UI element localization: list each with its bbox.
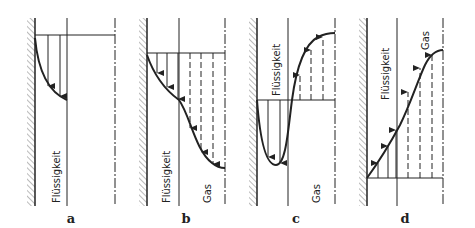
liquid-label: Flüssigkeit xyxy=(270,44,283,96)
wall-hatch xyxy=(359,18,367,206)
panel-b: Flüssigkeit Gas b xyxy=(139,18,225,226)
velocity-profile-curve xyxy=(35,38,67,100)
gas-label: Gas xyxy=(310,184,323,203)
gas-label: Gas xyxy=(201,184,214,203)
panel-a: Flüssigkeit a xyxy=(27,18,115,226)
panel-letter: c xyxy=(292,211,300,226)
panel-letter: d xyxy=(400,211,409,226)
panel-c: Flüssigkeit Gas c xyxy=(249,18,335,226)
panel-letter: b xyxy=(181,211,190,226)
liquid-label: Flüssigkeit xyxy=(50,151,63,203)
panel-d: Flüssigkeit Gas d xyxy=(359,18,443,226)
liquid-label: Flüssigkeit xyxy=(160,151,173,203)
wall-hatch xyxy=(139,18,147,206)
wall-hatch xyxy=(249,18,257,206)
liquid-label: Flüssigkeit xyxy=(379,48,392,100)
gas-label: Gas xyxy=(419,31,432,50)
panel-letter: a xyxy=(67,211,76,226)
velocity-profile-diagram: Flüssigkeit a Flüssigkeit Gas b Flüssigk… xyxy=(0,0,475,228)
wall-hatch xyxy=(27,18,35,206)
